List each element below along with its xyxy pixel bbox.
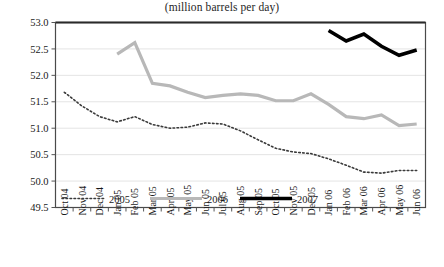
x-tick-label: Jun 06 — [411, 189, 422, 215]
series-line-2007 — [329, 30, 417, 55]
legend-label-2005: 2005 — [109, 194, 130, 205]
x-tick-label: Apr 06 — [376, 187, 387, 215]
x-tick-label: Feb 06 — [341, 188, 352, 216]
x-tick-label: Feb 05 — [129, 188, 140, 216]
y-tick-label: 52.5 — [30, 44, 48, 55]
y-tick-label: 50.0 — [30, 176, 48, 187]
x-tick-label: Oct 04 — [59, 189, 70, 216]
x-tick-label: Sep 05 — [253, 188, 264, 216]
x-tick-label: Aug 05 — [235, 186, 246, 216]
y-tick-label: 51.5 — [30, 96, 48, 107]
x-tick-label: Mar 05 — [147, 186, 158, 215]
legend-label-2006: 2006 — [207, 194, 228, 205]
y-axis: 49.550.050.551.051.552.052.553.0 — [30, 17, 55, 213]
x-tick-label: Dec 04 — [94, 187, 105, 216]
legend-label-2007: 2007 — [297, 194, 318, 205]
x-tick-label: Mar 06 — [358, 186, 369, 215]
y-tick-label: 49.5 — [30, 202, 48, 213]
line-chart: 49.550.050.551.051.552.052.553.0 Oct 04N… — [0, 0, 444, 267]
plot-area-border — [56, 23, 426, 208]
plot-frame — [56, 23, 426, 208]
chart-container: (million barrels per day) 49.550.050.551… — [0, 0, 444, 267]
x-tick-label: May 06 — [394, 185, 405, 216]
series-line-2006 — [117, 43, 417, 126]
y-tick-label: 50.5 — [30, 149, 48, 160]
y-tick-label: 52.0 — [30, 70, 48, 81]
gridlines — [56, 49, 426, 181]
series-line-2005 — [64, 92, 416, 173]
y-tick-label: 51.0 — [30, 123, 48, 134]
x-tick-label: Apr 05 — [165, 187, 176, 215]
x-tick-label: Oct 05 — [270, 189, 281, 216]
x-tick-label: Nov 04 — [77, 186, 88, 216]
x-tick-label: Jan 06 — [323, 190, 334, 216]
y-tick-label: 53.0 — [30, 17, 48, 28]
